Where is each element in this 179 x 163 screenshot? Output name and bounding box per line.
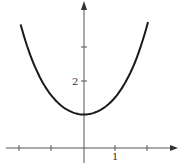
y-tick-label-2: 2 [72,76,78,87]
x-tick-label-1: 1 [112,151,118,162]
y-axis-arrow-icon [81,1,87,10]
cosh-graph: 1 2 [0,0,179,163]
x-axis-arrow-icon [170,145,178,151]
